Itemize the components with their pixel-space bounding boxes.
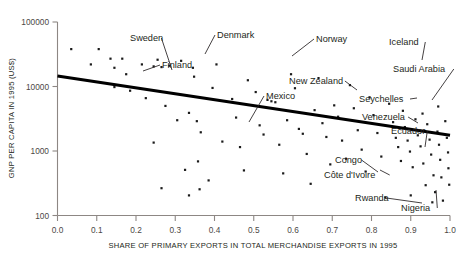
data-point (426, 123, 428, 125)
x-tick-label: 0.6 (287, 225, 299, 235)
x-tick-label: 0.1 (91, 225, 103, 235)
data-point (197, 160, 199, 162)
data-point (412, 166, 414, 168)
annotation-label-ecuador: Ecuador (391, 126, 425, 136)
x-tick-label: 0.7 (326, 225, 338, 235)
y-tick-label: 100 (35, 211, 49, 221)
data-point (243, 169, 245, 171)
annotation-label-norway: Norway (316, 34, 348, 44)
data-point (421, 113, 423, 115)
data-point (184, 169, 186, 171)
data-point (235, 116, 237, 118)
data-point (282, 172, 284, 174)
data-point (259, 124, 261, 126)
annotation-label-nigeria: Nigeria (401, 203, 431, 213)
x-tick-label: 0.2 (130, 225, 142, 235)
annotation-label-finland: Finland (162, 60, 192, 70)
data-point (414, 118, 416, 120)
data-point (442, 200, 444, 202)
annotation-label-denmark: Denmark (217, 30, 255, 40)
y-tick-label: 10000 (26, 82, 49, 92)
x-tick-label: 0.4 (209, 225, 221, 235)
annotation-label-mexico: Mexico (266, 91, 295, 101)
data-point (430, 153, 432, 155)
data-point (153, 141, 155, 143)
annotation-label-rwanda: Rwanda (355, 193, 390, 203)
x-axis-title: SHARE OF PRIMARY EXPORTS IN TOTAL MERCHA… (108, 241, 397, 250)
data-point (380, 155, 382, 157)
data-point (121, 58, 123, 60)
data-point (425, 184, 427, 186)
data-point (341, 139, 343, 141)
data-point (98, 48, 100, 50)
data-point (409, 150, 411, 152)
annotation-label-congo: Congo (335, 155, 362, 165)
data-point (447, 151, 449, 153)
data-point (444, 120, 446, 122)
x-tick-label: 0.3 (169, 225, 181, 235)
chart-canvas: 100100010000100000 0.00.10.20.30.40.50.6… (0, 0, 466, 257)
data-point (438, 144, 440, 146)
annotation-label-new-zealand: New Zealand (289, 76, 343, 86)
data-point (353, 107, 355, 109)
data-point (290, 73, 292, 75)
x-tick-label: 0.0 (52, 225, 64, 235)
data-point (286, 119, 288, 121)
scatter-chart: 100100010000100000 0.00.10.20.30.40.50.6… (0, 0, 466, 257)
data-point (221, 140, 223, 142)
data-point (437, 105, 439, 107)
data-point (70, 48, 72, 50)
data-point (419, 145, 421, 147)
data-point (431, 201, 433, 203)
data-point (141, 63, 143, 65)
x-tick-label: 0.9 (405, 225, 417, 235)
annotation-label-sweden: Sweden (130, 33, 163, 43)
data-point (439, 159, 441, 161)
x-tick-label: 0.5 (248, 225, 260, 235)
data-point (160, 187, 162, 189)
data-point (255, 91, 257, 93)
data-point (239, 146, 241, 148)
data-point (294, 87, 296, 89)
data-point (129, 90, 131, 92)
data-point (321, 122, 323, 124)
data-point (247, 79, 249, 81)
y-tick-label: 1000 (31, 146, 50, 156)
data-point (407, 139, 409, 141)
y-axis-title: GNP PER CAPITA IN 1995 (US$) (7, 58, 16, 178)
data-point (410, 194, 412, 196)
data-point (422, 162, 424, 164)
data-point (313, 109, 315, 111)
data-point (298, 128, 300, 130)
x-tick-label: 0.8 (366, 225, 378, 235)
data-point (448, 184, 450, 186)
data-point (432, 174, 434, 176)
data-point (145, 97, 147, 99)
data-point (310, 183, 312, 185)
data-point (192, 67, 194, 69)
data-point (376, 132, 378, 134)
data-point (231, 98, 233, 100)
data-point (446, 137, 448, 139)
data-point (188, 194, 190, 196)
data-point (262, 133, 264, 135)
annotation-label-seychelles: Seychelles (359, 94, 404, 104)
data-point (361, 149, 363, 151)
data-point (400, 160, 402, 162)
y-tick-label: 100000 (21, 17, 49, 27)
x-tick-label: 1.0 (444, 225, 456, 235)
data-point (325, 136, 327, 138)
data-point (278, 144, 280, 146)
data-point (357, 129, 359, 131)
data-point (113, 67, 115, 69)
data-point (198, 188, 200, 190)
annotation-label-venezuela: Venezuela (362, 112, 406, 122)
data-point (156, 59, 158, 61)
data-point (274, 101, 276, 103)
data-point (196, 120, 198, 122)
data-point (125, 73, 127, 75)
data-point (164, 105, 166, 107)
data-point (188, 112, 190, 114)
data-point (215, 63, 217, 65)
data-point (333, 104, 335, 106)
